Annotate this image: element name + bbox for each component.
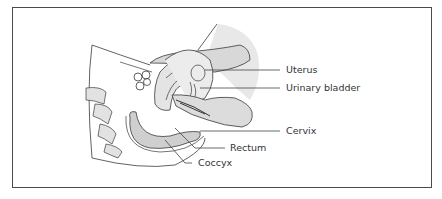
label-rectum: Rectum xyxy=(230,143,266,153)
label-coccyx: Coccyx xyxy=(198,158,232,168)
vaginal-hand xyxy=(172,95,252,127)
label-cervix: Cervix xyxy=(286,126,316,136)
label-urinary-bladder: Urinary bladder xyxy=(286,83,360,93)
pelvic-exam-illustration xyxy=(0,0,442,199)
label-uterus: Uterus xyxy=(286,65,317,75)
pubic-bone xyxy=(134,71,151,90)
